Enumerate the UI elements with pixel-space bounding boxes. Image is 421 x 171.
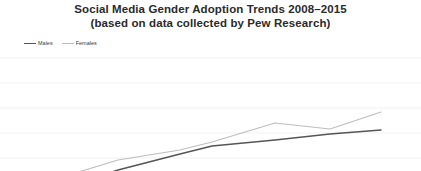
legend-item-females[interactable]: Females (62, 40, 97, 47)
chart-screenshot: Social Media Gender Adoption Trends 2008… (0, 0, 421, 171)
chart-canvas (0, 50, 421, 171)
legend-item-males[interactable]: Males (24, 40, 53, 47)
legend-swatch-males-icon (24, 43, 36, 44)
legend-swatch-females-icon (62, 43, 74, 44)
legend-label-males: Males (38, 40, 53, 47)
chart-title-block: Social Media Gender Adoption Trends 2008… (0, 2, 421, 30)
legend-label-females: Females (76, 40, 97, 47)
gridlines (0, 58, 421, 158)
chart-legend: Males Females (24, 38, 97, 49)
series-line-males (20, 130, 381, 171)
page-title: Social Media Gender Adoption Trends 2008… (0, 2, 421, 16)
chart-plot-area (0, 50, 421, 171)
chart-subtitle: (based on data collected by Pew Research… (0, 16, 421, 30)
series-line-females (20, 112, 381, 171)
